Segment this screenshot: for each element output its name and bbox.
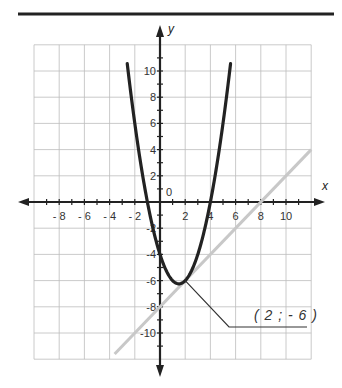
x-tick-label: - 6	[78, 210, 91, 222]
x-tick-label: - 2	[128, 210, 141, 222]
origin-label: 0	[166, 186, 172, 198]
annotation: ( 2 ; - 6 )	[185, 281, 318, 327]
x-tick-label: - 8	[53, 210, 66, 222]
y-tick-label: -10	[140, 327, 156, 339]
y-axis-down-arrow-icon	[156, 365, 164, 377]
x-tick-label: - 4	[103, 210, 116, 222]
y-tick-label: 2	[150, 170, 156, 182]
x-tick-label: 10	[280, 210, 292, 222]
y-tick-label: 4	[150, 144, 156, 156]
y-tick-label: 8	[150, 91, 156, 103]
x-tick-label: 8	[258, 210, 264, 222]
x-axis-left-arrow-icon	[18, 198, 29, 206]
y-tick-label: 10	[144, 65, 156, 77]
x-tick-label: 2	[182, 210, 188, 222]
y-tick-label: -6	[146, 275, 156, 287]
annotation-label: ( 2 ; - 6 )	[254, 307, 318, 323]
x-axis-arrow-icon	[314, 198, 325, 206]
y-tick-label: -4	[146, 248, 156, 260]
x-tick-label: 6	[233, 210, 239, 222]
axes: xy	[18, 22, 329, 377]
function-graph: xy - 8- 6- 4- 2246810108642-2-4-6-8-100 …	[0, 0, 342, 388]
y-tick-label: 6	[150, 117, 156, 129]
y-axis-arrow-icon	[156, 25, 164, 37]
y-axis-label: y	[167, 22, 175, 36]
x-axis-label: x	[321, 179, 329, 193]
